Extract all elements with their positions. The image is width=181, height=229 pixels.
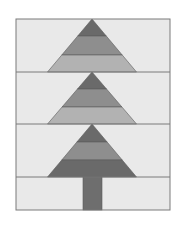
tree-band-light <box>48 55 137 72</box>
tree-band-dark <box>48 160 137 177</box>
tree-quilt-diagram <box>0 0 181 229</box>
tree-band-light <box>48 107 137 124</box>
tree-trunk <box>83 177 102 210</box>
